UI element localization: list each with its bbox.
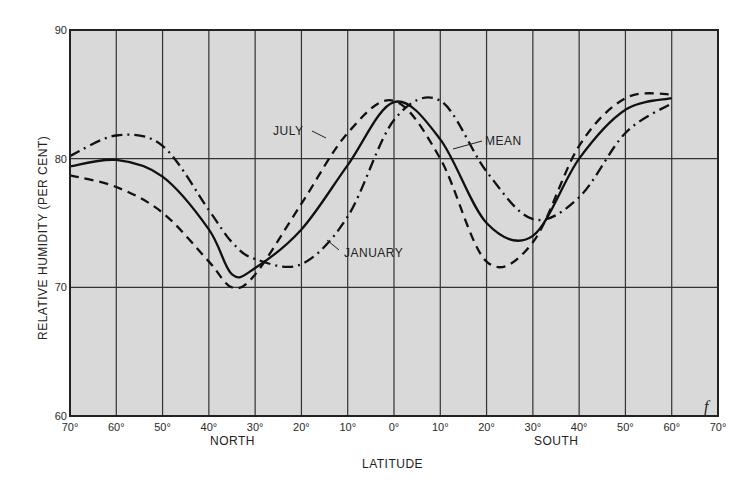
- january-annotation: JANUARY: [344, 246, 403, 260]
- july-annotation: JULY: [273, 124, 303, 138]
- x-tick-label: 20°: [478, 421, 495, 433]
- x-tick-label: 30°: [247, 421, 264, 433]
- x-tick-label: 50°: [154, 421, 171, 433]
- x-tick-label: 10°: [339, 421, 356, 433]
- south-label: SOUTH: [534, 434, 579, 448]
- mean-annotation: MEAN: [485, 134, 522, 148]
- x-tick-label: 70°: [62, 421, 79, 433]
- x-tick-label: 20°: [293, 421, 310, 433]
- x-tick-label: 60°: [663, 421, 680, 433]
- y-tick-label: 80: [55, 153, 67, 165]
- x-tick-label: 30°: [525, 421, 542, 433]
- x-axis-ticks: 70°60°50°40°30°20°10°0°10°20°30°40°50°60…: [62, 421, 727, 433]
- x-axis-title: LATITUDE: [362, 457, 423, 471]
- x-tick-label: 60°: [108, 421, 125, 433]
- x-tick-label: 70°: [710, 421, 727, 433]
- x-tick-label: 40°: [201, 421, 218, 433]
- y-axis-ticks: 60708090: [55, 24, 67, 422]
- x-tick-label: 0°: [389, 421, 400, 433]
- humidity-latitude-chart: 60708090 70°60°50°40°30°20°10°0°10°20°30…: [0, 0, 751, 492]
- y-axis-title: RELATIVE HUMIDITY (PER CENT): [36, 136, 50, 340]
- north-label: NORTH: [210, 434, 255, 448]
- x-tick-label: 40°: [571, 421, 588, 433]
- y-tick-label: 70: [55, 281, 67, 293]
- y-tick-label: 90: [55, 24, 67, 36]
- x-tick-label: 50°: [617, 421, 634, 433]
- x-tick-label: 10°: [432, 421, 449, 433]
